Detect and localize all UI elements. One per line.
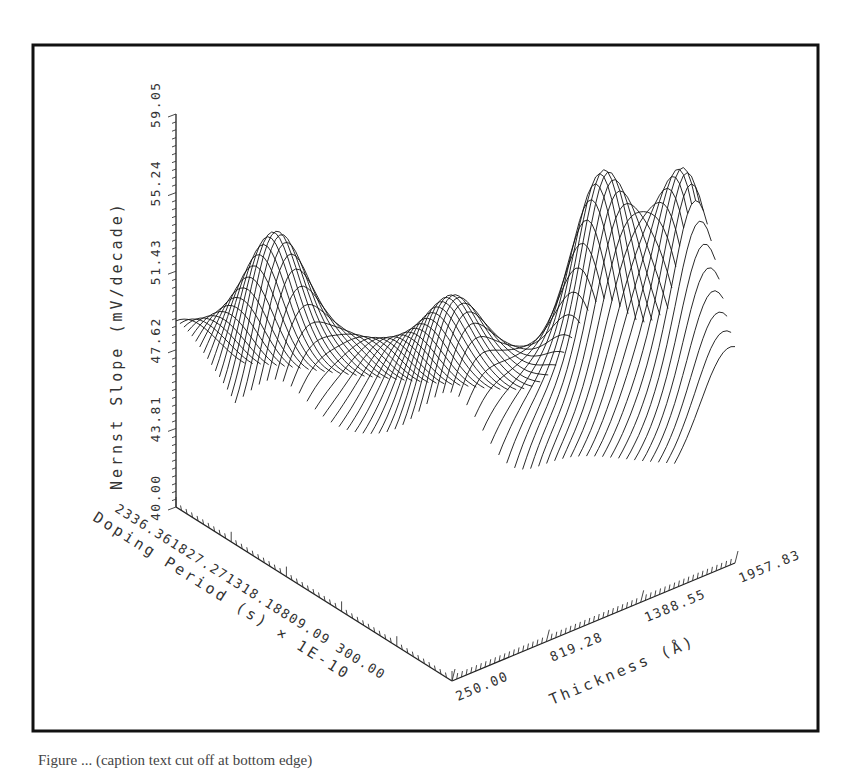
surface-mesh-line bbox=[363, 318, 492, 433]
thickness-tick-label: 1388.55 bbox=[642, 586, 708, 625]
figure-caption: Figure ... (caption text cut off at bott… bbox=[38, 752, 312, 769]
surface-mesh-line bbox=[419, 297, 548, 411]
doping-tick-label-group: 2336.361827.271318.18809.09300.00 bbox=[112, 501, 388, 683]
z-tick-label: 40.00 bbox=[148, 474, 163, 521]
surface-mesh-line bbox=[379, 307, 508, 434]
surface-mesh-line bbox=[371, 313, 500, 434]
z-tick-label: 43.81 bbox=[148, 396, 163, 443]
surface-mesh-line bbox=[395, 298, 524, 430]
axis-tick bbox=[168, 271, 176, 274]
z-tick-label: 47.62 bbox=[148, 317, 163, 364]
surface-mesh-line bbox=[451, 315, 580, 393]
doping-axis-title: Doping Period (s) × 1E-10 bbox=[90, 508, 354, 684]
surface-mesh-line bbox=[563, 202, 680, 459]
axis-tick bbox=[168, 114, 176, 117]
surface-mesh-line bbox=[387, 302, 516, 432]
surface-mesh-line bbox=[204, 288, 301, 368]
thickness-tick-label: 1957.83 bbox=[736, 547, 802, 586]
axis-tick bbox=[546, 630, 549, 642]
thickness-tick-label-group: 250.00819.281388.551957.83 bbox=[453, 547, 802, 704]
axis-tick bbox=[452, 669, 455, 681]
surface-mesh-line bbox=[611, 184, 704, 458]
surface-mesh-line bbox=[595, 168, 696, 457]
surface-mesh-line bbox=[491, 200, 620, 444]
surface-mesh-line bbox=[626, 221, 711, 459]
axis-tick bbox=[168, 507, 176, 510]
z-tick-label: 59.05 bbox=[148, 81, 163, 128]
z-tick-label: 51.43 bbox=[148, 239, 163, 286]
surface-mesh-line bbox=[571, 188, 684, 457]
surface-mesh-line bbox=[212, 266, 317, 371]
z-tick-label: 55.24 bbox=[148, 160, 163, 207]
axis-tick bbox=[168, 350, 176, 353]
axis-tick bbox=[168, 428, 176, 431]
surface-mesh-line bbox=[475, 244, 604, 417]
surface-mesh-line bbox=[650, 291, 723, 462]
surface-mesh-line bbox=[192, 312, 277, 366]
z-tick-label-group: 40.0043.8147.6251.4355.2459.05 bbox=[148, 81, 163, 521]
surface-mesh-line bbox=[523, 172, 652, 469]
z-axis-title: Nernst Slope (mV/decade) bbox=[108, 201, 126, 490]
surface-mesh-line bbox=[403, 295, 532, 425]
surface-mesh bbox=[176, 168, 735, 470]
axis-tick bbox=[735, 551, 738, 563]
axis-tick bbox=[641, 590, 644, 602]
axis-tick bbox=[168, 193, 176, 196]
